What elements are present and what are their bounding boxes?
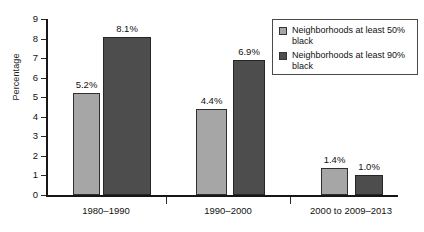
x-axis-category-label: 2000 to 2009–2013	[291, 205, 411, 216]
y-axis-tick-label: 7	[20, 53, 38, 63]
x-axis-category-label: 1990–2000	[168, 205, 288, 216]
y-axis-tick-label: 3	[20, 131, 38, 141]
bar-value-label: 1.0%	[352, 162, 386, 172]
x-axis-separator-tick	[166, 197, 167, 204]
legend-item: Neighborhoods at least 90% black	[279, 50, 413, 71]
y-axis-tick	[41, 175, 46, 176]
bar	[73, 93, 100, 195]
y-axis-tick-label: 1	[20, 170, 38, 180]
y-axis-tick	[41, 136, 46, 137]
y-axis-tick	[41, 117, 46, 118]
x-axis-separator-tick	[290, 197, 291, 204]
y-axis-tick-label: 8	[20, 34, 38, 44]
x-axis-category-label: 1980–1990	[46, 205, 166, 216]
legend-item: Neighborhoods at least 50% black	[279, 25, 413, 46]
y-axis-tick	[41, 195, 46, 196]
bar-value-label: 5.2%	[70, 80, 104, 90]
y-axis-tick-label: 0	[20, 190, 38, 200]
y-axis-tick	[41, 78, 46, 79]
y-axis-line	[46, 19, 48, 197]
x-axis-line	[46, 195, 398, 197]
y-axis-tick-label: 6	[20, 73, 38, 83]
bar-value-label: 4.4%	[195, 96, 229, 106]
y-axis-tick	[41, 58, 46, 59]
bar-value-label: 8.1%	[110, 24, 144, 34]
y-axis-tick-label: 5	[20, 92, 38, 102]
y-axis-tick	[41, 156, 46, 157]
y-axis-tick	[41, 19, 46, 20]
y-axis-tick-label: 9	[20, 14, 38, 24]
bar	[233, 60, 265, 195]
y-axis-tick-label: 2	[20, 151, 38, 161]
legend: Neighborhoods at least 50% black Neighbo…	[272, 19, 418, 75]
y-axis-tick	[41, 39, 46, 40]
bar	[196, 109, 227, 195]
legend-item-label: Neighborhoods at least 50% black	[292, 25, 410, 46]
y-axis-tick-label: 4	[20, 112, 38, 122]
bar	[355, 175, 383, 195]
bar-chart: Percentage 9876543210 5.2%8.1%4.4%6.9%1.…	[0, 0, 424, 232]
legend-item-label: Neighborhoods at least 90% black	[292, 50, 410, 71]
bar	[321, 168, 348, 195]
light-gray-swatch-icon	[279, 27, 287, 35]
dark-gray-swatch-icon	[279, 52, 287, 60]
y-axis-tick	[41, 97, 46, 98]
bar-value-label: 6.9%	[232, 47, 266, 57]
bar	[103, 37, 151, 195]
bar-value-label: 1.4%	[318, 155, 352, 165]
